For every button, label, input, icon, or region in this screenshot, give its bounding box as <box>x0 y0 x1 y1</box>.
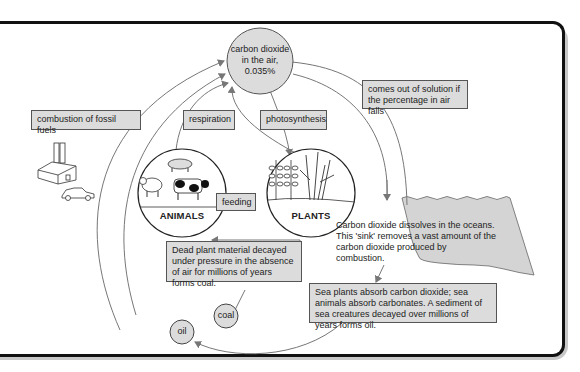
car-icon <box>62 188 94 201</box>
co2-line2: in the air, <box>228 55 292 66</box>
comes-out-of-solution-label: comes out of solution if the percentage … <box>362 80 468 109</box>
co2-line1: carbon dioxide <box>228 44 292 55</box>
dead-plant-material-label: Dead plant material decayed under pressu… <box>166 241 302 282</box>
photosynthesis-label: photosynthesis <box>260 110 327 130</box>
animals-label: ANIMALS <box>150 210 214 221</box>
respiration-label: respiration <box>183 110 235 130</box>
sea-plants-label: Sea plants absorb carbon dioxide; sea an… <box>309 283 497 323</box>
ocean-label: Carbon dioxide dissolves in the oceans. … <box>336 220 496 264</box>
factory-icon <box>38 143 76 184</box>
oil-label: oil <box>168 326 196 337</box>
combustion-label: combustion of fossil fuels <box>31 110 141 130</box>
coal-label: coal <box>212 310 240 321</box>
feeding-label: feeding <box>216 193 256 211</box>
co2-line3: 0.035% <box>228 66 292 77</box>
plants-label: PLANTS <box>279 210 343 221</box>
co2-node-label: carbon dioxide in the air, 0.035% <box>228 44 292 77</box>
